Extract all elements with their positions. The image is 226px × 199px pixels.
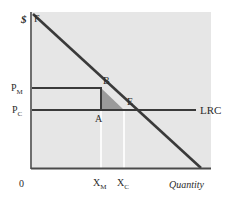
price-label-pc-subscript: C (18, 110, 23, 118)
economics-diagram: $ F B A E PM PC LRC XM XC 0 Quantity (0, 0, 226, 199)
quantity-label-xm-subscript: M (100, 183, 107, 191)
price-label-pm: PM (11, 82, 24, 96)
point-label-e: E (127, 96, 133, 107)
quantity-label-xc-subscript: C (124, 183, 129, 191)
x-axis-label: Quantity (169, 179, 205, 190)
y-axis-label: $ (20, 13, 27, 25)
price-label-pc: PC (12, 104, 23, 118)
quantity-label-xm: XM (93, 177, 107, 191)
point-label-a: A (95, 113, 103, 124)
point-label-b: B (103, 75, 110, 86)
quantity-label-xc: XC (117, 177, 129, 191)
price-label-pm-subscript: M (17, 88, 24, 96)
lrc-curve-label: LRC (200, 104, 221, 116)
point-label-f: F (34, 13, 40, 24)
origin-label: 0 (19, 178, 24, 189)
